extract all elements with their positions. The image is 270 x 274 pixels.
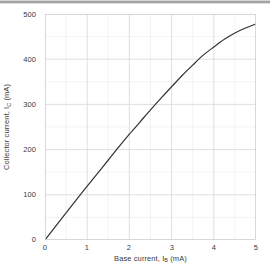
y-tick-label-400: 400 — [10, 55, 36, 64]
plot-frame — [45, 14, 256, 240]
y-tick-label-500: 500 — [10, 10, 36, 19]
x-tick-label-0: 0 — [35, 243, 55, 252]
y-tick-label-0: 0 — [10, 235, 36, 244]
x-axis-title-unit: (mA) — [168, 254, 187, 263]
x-tick-label-5: 5 — [246, 243, 266, 252]
y-tick-label-200: 200 — [10, 145, 36, 154]
x-tick-label-2: 2 — [119, 243, 139, 252]
plot-area — [45, 14, 256, 240]
chart-figure: Collector current, IC (mA) 500 400 300 2… — [0, 4, 270, 274]
x-axis-title-prefix: Base current, — [114, 254, 162, 263]
y-axis-title: Collector current, IC (mA) — [2, 84, 11, 170]
y-tick-label-100: 100 — [10, 190, 36, 199]
x-tick-label-3: 3 — [162, 243, 182, 252]
x-axis-title: Base current, IB (mA) — [45, 254, 256, 263]
x-tick-label-4: 4 — [204, 243, 224, 252]
y-axis-title-container: Collector current, IC (mA) — [0, 14, 14, 240]
y-axis-title-prefix: Collector current, — [2, 109, 11, 170]
plot-border — [45, 14, 255, 239]
y-tick-label-300: 300 — [10, 100, 36, 109]
x-tick-label-1: 1 — [77, 243, 97, 252]
